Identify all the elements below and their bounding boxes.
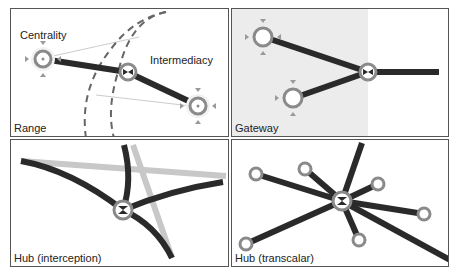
intermediacy-node-icon xyxy=(120,64,136,80)
panel-label-gateway: Gateway xyxy=(235,122,278,134)
hub-node-icon xyxy=(114,201,132,219)
panel-label-hub-interception: Hub (interception) xyxy=(14,252,101,264)
panel-label-range: Range xyxy=(14,122,46,134)
end-node-icon xyxy=(180,88,216,124)
panel-hub-interception: Hub (interception) xyxy=(10,139,229,267)
gateway-node-icon xyxy=(360,64,376,80)
panel-gateway: Gateway xyxy=(231,8,449,137)
panel-label-hub-transcalar: Hub (transcalar) xyxy=(235,252,314,264)
hub-transcalar-diagram xyxy=(232,140,449,267)
centrality-label: Centrality xyxy=(20,29,66,41)
panel-range: Centrality Intermediacy Range xyxy=(10,8,229,137)
panel-hub-transcalar: Hub (transcalar) xyxy=(231,139,449,267)
hub-interception-diagram xyxy=(11,140,229,267)
gateway-diagram xyxy=(232,9,449,137)
intermediacy-label: Intermediacy xyxy=(150,54,213,66)
hub-node-icon xyxy=(333,192,351,210)
